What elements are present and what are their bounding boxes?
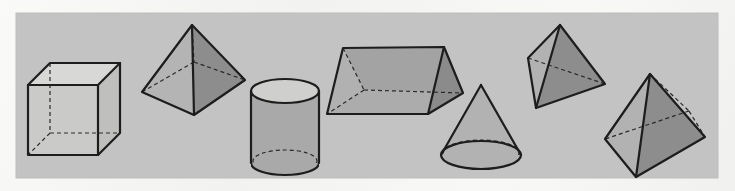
shape-cube — [28, 63, 120, 155]
solids-illustration — [0, 0, 735, 191]
shape-cylinder — [251, 79, 319, 175]
geometric-solids-figure — [0, 0, 735, 191]
shape-triangular-prism — [327, 47, 463, 114]
